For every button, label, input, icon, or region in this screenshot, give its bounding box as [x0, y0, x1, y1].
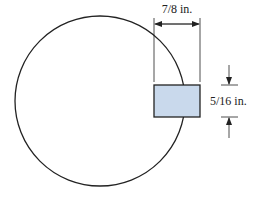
height-dimension: 5/16 in.	[210, 65, 247, 138]
diagram: 7/8 in. 5/16 in.	[0, 0, 257, 197]
width-label: 7/8 in.	[162, 2, 193, 16]
cross-section-rectangle	[154, 85, 200, 117]
height-label: 5/16 in.	[210, 94, 247, 108]
